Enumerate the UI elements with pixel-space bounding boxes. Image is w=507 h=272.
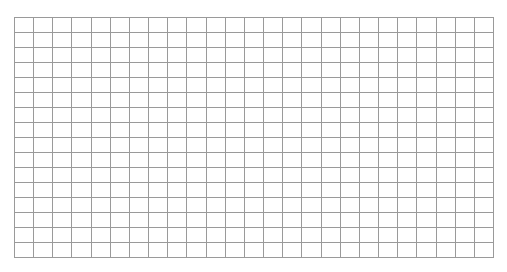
grid-cell bbox=[302, 198, 321, 213]
grid-cell bbox=[245, 78, 264, 93]
grid-cell bbox=[475, 78, 494, 93]
grid-cell bbox=[322, 78, 341, 93]
grid-cell bbox=[92, 48, 111, 63]
grid-cell bbox=[187, 33, 206, 48]
grid-cell bbox=[15, 33, 34, 48]
grid-cell bbox=[168, 243, 187, 258]
grid-cell bbox=[283, 213, 302, 228]
grid-cell bbox=[72, 63, 91, 78]
grid-cell bbox=[15, 168, 34, 183]
grid-cell bbox=[379, 198, 398, 213]
grid-cell bbox=[302, 153, 321, 168]
grid-cell bbox=[437, 78, 456, 93]
grid-cell bbox=[207, 138, 226, 153]
grid-cell bbox=[207, 108, 226, 123]
grid-cell bbox=[34, 138, 53, 153]
grid-cell bbox=[437, 138, 456, 153]
grid-cell bbox=[72, 123, 91, 138]
grid-cell bbox=[187, 123, 206, 138]
grid-cell bbox=[226, 243, 245, 258]
grid-cell bbox=[111, 213, 130, 228]
grid-cell bbox=[322, 93, 341, 108]
grid-cell bbox=[456, 78, 475, 93]
grid-cell bbox=[398, 48, 417, 63]
grid-cell bbox=[111, 48, 130, 63]
grid-cell bbox=[72, 18, 91, 33]
grid-cell bbox=[456, 213, 475, 228]
grid-cell bbox=[456, 33, 475, 48]
grid-cell bbox=[437, 63, 456, 78]
grid-cell bbox=[92, 18, 111, 33]
grid-cell bbox=[245, 48, 264, 63]
grid-cell bbox=[341, 138, 360, 153]
grid-cell bbox=[168, 183, 187, 198]
grid-cell bbox=[111, 138, 130, 153]
grid-cell bbox=[92, 168, 111, 183]
grid-cell bbox=[15, 198, 34, 213]
grid-cell bbox=[341, 48, 360, 63]
grid-cell bbox=[456, 108, 475, 123]
grid-cell bbox=[207, 153, 226, 168]
grid-cell bbox=[53, 108, 72, 123]
grid-cell bbox=[53, 48, 72, 63]
grid-cell bbox=[417, 183, 436, 198]
grid-cell bbox=[34, 33, 53, 48]
grid-cell bbox=[245, 168, 264, 183]
grid-cell bbox=[341, 198, 360, 213]
grid-cell bbox=[187, 108, 206, 123]
grid-cell bbox=[207, 78, 226, 93]
grid-cell bbox=[360, 243, 379, 258]
grid-cell bbox=[168, 33, 187, 48]
grid-cell bbox=[456, 63, 475, 78]
grid-cell bbox=[15, 108, 34, 123]
grid-cell bbox=[34, 153, 53, 168]
grid-cell bbox=[456, 168, 475, 183]
grid-cell bbox=[322, 228, 341, 243]
grid-cell bbox=[187, 213, 206, 228]
grid-cell bbox=[341, 183, 360, 198]
grid-cell bbox=[264, 48, 283, 63]
grid-cell bbox=[437, 213, 456, 228]
grid-cell bbox=[456, 228, 475, 243]
grid-cell bbox=[34, 213, 53, 228]
grid-cell bbox=[111, 243, 130, 258]
grid-cell bbox=[207, 198, 226, 213]
grid-cell bbox=[417, 33, 436, 48]
grid-cell bbox=[111, 93, 130, 108]
grid-cell bbox=[111, 183, 130, 198]
grid-cell bbox=[72, 243, 91, 258]
grid-cell bbox=[187, 48, 206, 63]
grid-cell bbox=[72, 153, 91, 168]
grid-cell bbox=[322, 243, 341, 258]
grid-cell bbox=[245, 213, 264, 228]
grid-cell bbox=[437, 108, 456, 123]
grid-cell bbox=[92, 33, 111, 48]
grid-cell bbox=[264, 123, 283, 138]
grid-cell bbox=[130, 198, 149, 213]
grid-cell bbox=[207, 183, 226, 198]
grid-cell bbox=[130, 153, 149, 168]
grid-cell bbox=[417, 123, 436, 138]
grid-cell bbox=[379, 108, 398, 123]
grid-cell bbox=[322, 33, 341, 48]
grid-cell bbox=[111, 123, 130, 138]
grid-cell bbox=[92, 243, 111, 258]
grid-cell bbox=[360, 108, 379, 123]
grid-cell bbox=[92, 93, 111, 108]
grid-cell bbox=[92, 78, 111, 93]
grid-cell bbox=[283, 108, 302, 123]
grid-cell bbox=[245, 243, 264, 258]
grid-cell bbox=[341, 63, 360, 78]
grid-cell bbox=[322, 168, 341, 183]
grid-cell bbox=[379, 183, 398, 198]
grid-cell bbox=[111, 228, 130, 243]
grid-cell bbox=[53, 243, 72, 258]
grid-cell bbox=[168, 153, 187, 168]
grid-cell bbox=[53, 63, 72, 78]
grid-cell bbox=[15, 243, 34, 258]
grid-cell bbox=[53, 153, 72, 168]
grid-cell bbox=[379, 63, 398, 78]
grid-cell bbox=[149, 48, 168, 63]
grid-cell bbox=[322, 18, 341, 33]
grid-cell bbox=[417, 138, 436, 153]
